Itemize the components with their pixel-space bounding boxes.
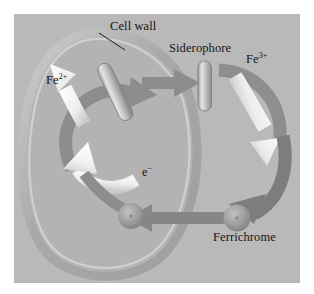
label-siderophore: Siderophore [169,42,231,55]
iron-uptake-figure: Cell wall Siderophore Fe3+ Fe2+ e− Ferri… [0,0,314,294]
label-cell-wall: Cell wall [110,20,156,33]
label-ferric-ion: Fe3+ [246,52,267,66]
outer-sphere-center-dot [236,217,239,220]
label-ferrichrome: Ferrichrome [213,231,276,244]
siderophore-rod [198,61,212,111]
label-electron: e− [142,165,152,178]
label-ferrous-ion: Fe2+ [46,73,67,87]
inner-sphere-center-dot [130,215,133,218]
